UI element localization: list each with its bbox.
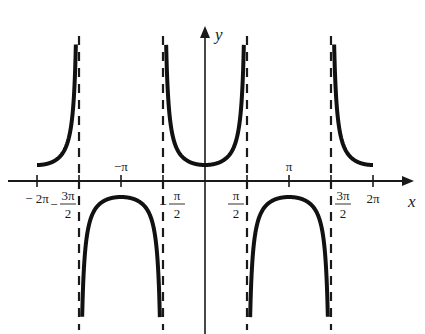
y-axis-arrow-icon	[200, 26, 210, 38]
x-tick-fraction-label: 3π2−	[50, 188, 76, 221]
x-tick-label: −π	[114, 159, 128, 174]
svg-text:2: 2	[340, 206, 347, 221]
secant-graph: − 2π3π2−−ππ2−π2π3π22π x y	[0, 0, 425, 334]
x-tick-label: π	[286, 159, 293, 174]
sec-curve-branch	[334, 44, 373, 165]
svg-text:2: 2	[65, 206, 72, 221]
svg-text:π: π	[174, 188, 181, 203]
axes	[8, 26, 414, 334]
sec-curve-branch	[37, 44, 76, 165]
svg-text:3π: 3π	[61, 188, 75, 203]
svg-text:2: 2	[174, 206, 181, 221]
svg-text:2: 2	[233, 206, 240, 221]
x-tick-label: 2π	[366, 191, 380, 206]
x-axis-arrow-icon	[402, 176, 414, 186]
x-tick-fraction-label: 3π2	[335, 188, 351, 221]
sec-curve-branch	[250, 197, 328, 317]
svg-text:−: −	[159, 197, 166, 212]
svg-text:π: π	[233, 188, 240, 203]
x-axis-label: x	[407, 192, 416, 211]
x-tick-label: − 2π	[25, 191, 49, 206]
y-axis-label: y	[213, 25, 223, 44]
svg-text:3π: 3π	[336, 188, 350, 203]
sec-curve-branch	[82, 197, 160, 317]
x-tick-fraction-label: π2	[228, 188, 244, 221]
svg-text:−: −	[50, 197, 57, 212]
